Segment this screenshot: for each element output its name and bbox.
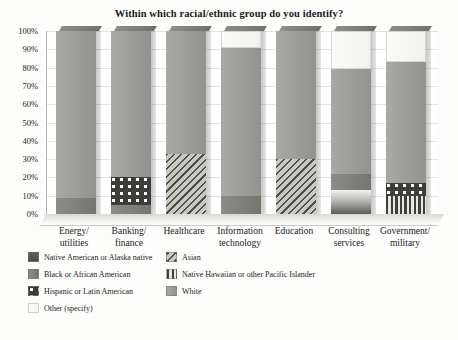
bar-top-cap [279, 26, 322, 31]
bar-side-3d [316, 31, 321, 214]
legend-label-white: White [182, 287, 202, 296]
segment-asian[interactable] [166, 154, 206, 214]
y-tick-10: 10% [22, 191, 38, 201]
x-label-government-military: Government/ military [367, 226, 443, 249]
legend-swatch-other-icon [28, 303, 39, 313]
chart-legend: Native American or Alaska native Black o… [0, 252, 458, 314]
legend-swatch-asian-icon [166, 252, 177, 262]
segment-other[interactable] [331, 31, 371, 69]
legend-label-other: Other (specify) [44, 304, 93, 313]
segment-black-african[interactable] [331, 174, 371, 191]
segment-white[interactable] [331, 69, 371, 173]
bar-side-3d [206, 31, 211, 214]
bar-top-cap [114, 26, 157, 31]
y-tick-20: 20% [22, 172, 38, 182]
legend-swatch-native-hawaiian-icon [166, 269, 177, 279]
legend-item-black-african[interactable]: Black or African American [28, 269, 130, 279]
segment-asian[interactable] [276, 159, 316, 214]
x-label-line2: finance [95, 238, 163, 250]
bar-side-3d [96, 31, 101, 214]
segment-hispanic[interactable] [386, 183, 426, 196]
legend-label-asian: Asian [182, 253, 201, 262]
y-tick-80: 80% [22, 63, 38, 73]
bar-side-3d [261, 31, 266, 214]
segment-other[interactable] [221, 31, 261, 48]
segment-white[interactable] [386, 62, 426, 183]
legend-item-native-hawaiian[interactable]: Native Hawaiian or other Pacific Islande… [166, 269, 315, 279]
y-tick-90: 90% [22, 44, 38, 54]
legend-swatch-native-american-icon [28, 252, 39, 262]
segment-white[interactable] [276, 31, 316, 159]
bar-top-cap [334, 26, 377, 31]
y-tick-30: 30% [22, 154, 38, 164]
bar-top-cap [59, 26, 102, 31]
bar-side-3d [371, 31, 376, 214]
segment-white[interactable] [56, 31, 96, 198]
y-tick-100: 100% [18, 26, 38, 36]
legend-swatch-black-african-icon [28, 269, 39, 279]
legend-swatch-white-icon [166, 286, 177, 296]
segment-native-american[interactable] [331, 190, 371, 214]
legend-label-native-american: Native American or Alaska native [44, 253, 152, 262]
segment-white[interactable] [221, 48, 261, 196]
legend-item-asian[interactable]: Asian [166, 252, 201, 262]
segment-black-african[interactable] [56, 198, 96, 215]
bar-top-cap [224, 26, 267, 31]
x-label-line2: technology [204, 238, 276, 250]
bar-top-cap [169, 26, 212, 31]
bar-side-3d [426, 31, 431, 214]
y-tick-40: 40% [22, 136, 38, 146]
segment-native-hawaiian[interactable] [386, 196, 426, 214]
segment-black-african[interactable] [221, 196, 261, 214]
legend-label-hispanic: Hispanic or Latin American [44, 287, 133, 296]
legend-label-native-hawaiian: Native Hawaiian or other Pacific Islande… [182, 270, 315, 279]
legend-label-black-african: Black or African American [44, 270, 130, 279]
x-label-line1: Government/ [367, 226, 443, 238]
y-axis-line [46, 31, 47, 214]
segment-white[interactable] [111, 31, 151, 177]
segment-white[interactable] [166, 31, 206, 154]
segment-other[interactable] [386, 31, 426, 62]
bar-side-3d [151, 31, 156, 214]
legend-item-white[interactable]: White [166, 286, 202, 296]
y-tick-0: 0% [27, 209, 38, 219]
plot-area [46, 31, 438, 214]
chart-title: Within which racial/ethnic group do you … [0, 8, 458, 19]
y-tick-70: 70% [22, 81, 38, 91]
y-tick-60: 60% [22, 99, 38, 109]
chart-container: Within which racial/ethnic group do you … [0, 0, 458, 340]
x-label-line2: military [367, 238, 443, 250]
segment-hispanic[interactable] [111, 177, 151, 204]
chart-floor-3d [40, 214, 444, 226]
legend-item-native-american[interactable]: Native American or Alaska native [28, 252, 152, 262]
legend-item-hispanic[interactable]: Hispanic or Latin American [28, 286, 133, 296]
legend-item-other[interactable]: Other (specify) [28, 303, 93, 313]
legend-swatch-hispanic-icon [28, 286, 39, 296]
y-tick-50: 50% [22, 118, 38, 128]
bar-top-cap [389, 26, 432, 31]
segment-black-african[interactable] [111, 205, 151, 214]
